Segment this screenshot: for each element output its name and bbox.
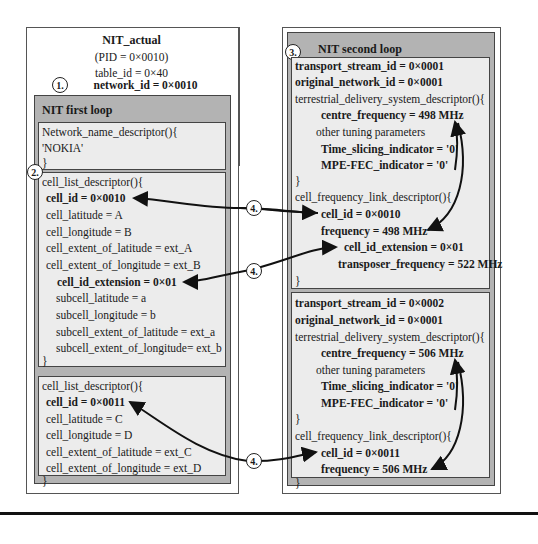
- ts1-other-tuning: other tuning parameters: [316, 125, 425, 139]
- step-badge-4a: 4.: [246, 200, 262, 216]
- network-name-close: }: [42, 156, 48, 170]
- ts2-cell-id: cell_id = 0×0011: [321, 446, 400, 460]
- ts1-cell-id-extension: cell_id_extension = 0×01: [344, 240, 464, 254]
- pid-label: (PID = 0×0010): [26, 50, 237, 64]
- ts2-frequency: frequency = 506 MHz: [321, 462, 427, 476]
- ts2-cfld-open: cell_frequency_link_descriptor(){: [295, 429, 452, 443]
- cell-list-1-ext-lon: cell_extent_of_longitude = ext_B: [46, 258, 201, 272]
- ts2-cfld-close: }: [295, 476, 301, 490]
- cell-list-1-ext-lat: cell_extent_of_latitude = ext_A: [46, 241, 192, 255]
- ts2-mpe-fec: MPE-FEC_indicator = '0': [321, 396, 448, 410]
- cell-list-1-subcell-latitude: subcell_latitude = a: [56, 291, 146, 305]
- cell-list-1-cell-id: cell_id = 0×0010: [46, 191, 126, 205]
- nit-second-loop-title: NIT second loop: [318, 42, 402, 57]
- cell-list-1-subcell-ext-lat: subcell_extent_of_latitude = ext_a: [56, 325, 215, 339]
- ts2-tdsd-open: terrestrial_delivery_system_descriptor()…: [295, 330, 485, 344]
- ts2-tdsd-close: }: [295, 412, 301, 426]
- nit-first-loop-title: NIT first loop: [42, 103, 112, 118]
- ts1-original-network-id: original_network_id = 0×0001: [295, 75, 443, 89]
- ts2-other-tuning: other tuning parameters: [316, 363, 425, 377]
- cell-list-1-subcell-longitude: subcell_longitude = b: [56, 308, 156, 322]
- bottom-rule: [0, 512, 538, 515]
- cell-list-2-close: }: [42, 474, 48, 488]
- cell-list-1-cell-id-extension: cell_id_extension = 0×01: [57, 275, 177, 289]
- cell-list-1-longitude: cell_longitude = B: [46, 225, 132, 239]
- ts1-cfld-open: cell_frequency_link_descriptor(){: [295, 190, 452, 204]
- ts1-frequency: frequency = 498 MHz: [321, 224, 427, 238]
- cell-list-2-ext-lon: cell_extent_of_longitude = ext_D: [46, 461, 201, 475]
- step-badge-1: 1.: [52, 77, 68, 93]
- ts1-mpe-fec: MPE-FEC_indicator = '0': [321, 158, 448, 172]
- cell-list-1-latitude: cell_latitude = A: [46, 208, 123, 222]
- cell-list-2-ext-lat: cell_extent_of_latitude = ext_C: [46, 445, 192, 459]
- nit-actual-title: NIT_actual: [26, 33, 237, 48]
- step-badge-4c: 4.: [246, 453, 262, 469]
- cell-list-1-close: }: [42, 354, 48, 368]
- ts2-original-network-id: original_network_id = 0×0001: [295, 313, 443, 327]
- ts1-time-slicing: Time_slicing_indicator = '0': [321, 142, 458, 156]
- ts2-centre-frequency: centre_frequency = 506 MHz: [321, 346, 464, 360]
- network-id-label: network_id = 0×0010: [40, 78, 251, 92]
- cell-list-2-longitude: cell_longitude = D: [46, 428, 132, 442]
- network-name-value: 'NOKIA': [42, 141, 83, 155]
- network-name-open: Network_name_descriptor(){: [42, 125, 178, 139]
- cell-list-1-open: cell_list_descriptor(){: [42, 175, 143, 189]
- step-badge-2: 2.: [27, 164, 43, 180]
- ts1-cell-id: cell_id = 0×0010: [321, 207, 401, 221]
- cell-list-2-open: cell_list_descriptor(){: [42, 379, 143, 393]
- ts1-transport-stream-id: transport_stream_id = 0×0001: [295, 59, 444, 73]
- ts1-centre-frequency: centre_frequency = 498 MHz: [321, 108, 464, 122]
- ts1-tdsd-close: }: [295, 174, 301, 188]
- ts1-transposer-frequency: transposer_frequency = 522 MHz: [338, 257, 502, 271]
- cell-list-2-cell-id: cell_id = 0×0011: [46, 395, 125, 409]
- ts1-tdsd-open: terrestrial_delivery_system_descriptor()…: [295, 92, 485, 106]
- ts2-time-slicing: Time_slicing_indicator = '0': [321, 379, 458, 393]
- ts2-transport-stream-id: transport_stream_id = 0×0002: [295, 296, 444, 310]
- step-badge-4b: 4.: [246, 263, 262, 279]
- cell-list-1-subcell-ext-lon: subcell_extent_of_longitude= ext_b: [56, 341, 222, 355]
- cell-list-2-latitude: cell_latitude = C: [46, 412, 123, 426]
- ts1-cfld-close: }: [295, 274, 301, 288]
